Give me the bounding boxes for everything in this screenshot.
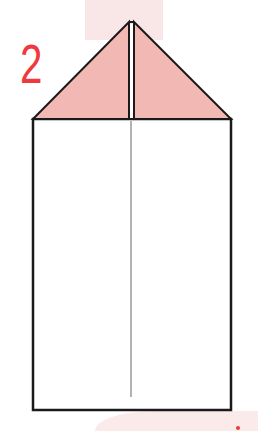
right-flap: [134, 22, 231, 119]
red-mark: [236, 426, 240, 430]
paper-body: [33, 119, 231, 410]
left-flap: [33, 22, 129, 119]
flap-gap: [130, 24, 133, 118]
fold-diagram: [0, 0, 258, 431]
